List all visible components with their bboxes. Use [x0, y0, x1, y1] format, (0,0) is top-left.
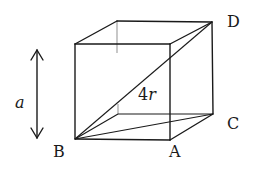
cube-diagram: a 4r B A C D	[0, 0, 257, 169]
diagonal-label-number: 4	[138, 85, 148, 104]
vertex-label-a: A	[168, 142, 181, 161]
body-diagonal-b-to-d	[75, 22, 212, 139]
vertex-label-c: C	[227, 114, 239, 133]
back-right-edge	[212, 22, 213, 114]
top-left-depth-edge	[75, 21, 117, 44]
vertex-label-b: B	[53, 142, 65, 161]
hidden-edges	[117, 21, 118, 114]
diagonal-label-variable: r	[148, 85, 157, 104]
top-right-depth-edge	[170, 22, 212, 44]
vertex-label-d: D	[227, 12, 240, 31]
edge-length-label: a	[15, 93, 25, 112]
diagonal-label: 4r	[138, 85, 157, 104]
front-bottom-edge	[75, 139, 170, 140]
back-top-edge	[117, 21, 212, 22]
edge-length-arrow	[31, 50, 43, 138]
